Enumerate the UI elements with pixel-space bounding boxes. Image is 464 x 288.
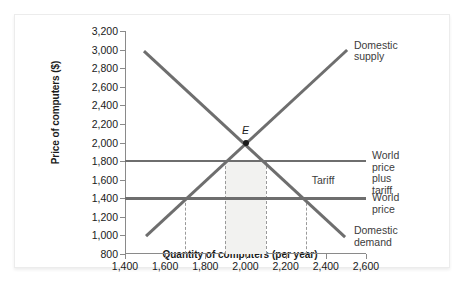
x-tick-label-1800: 1,800 xyxy=(192,260,218,272)
y-tick-2400 xyxy=(120,105,125,106)
y-tick-2200 xyxy=(120,124,125,125)
series-label-domestic-supply: Domestic supply xyxy=(354,40,398,63)
y-tick-label-1200: 1,200 xyxy=(92,211,118,223)
y-tick-1600 xyxy=(120,180,125,181)
equilibrium-point-dot xyxy=(243,140,249,146)
x-tick-2600 xyxy=(366,254,367,259)
x-tick-label-2600: 2,600 xyxy=(353,260,379,272)
x-tick-label-1400: 1,400 xyxy=(112,260,138,272)
demand-quantity-at-world-price-plus-tariff xyxy=(266,161,267,254)
x-tick-2200 xyxy=(286,254,287,259)
series-line-world-price-plus-tariff xyxy=(125,160,366,163)
x-tick-1800 xyxy=(205,254,206,259)
x-tick-label-2000: 2,000 xyxy=(232,260,258,272)
equilibrium-point-label: E xyxy=(242,124,249,136)
y-tick-2800 xyxy=(120,68,125,69)
y-tick-1000 xyxy=(120,235,125,236)
y-tick-label-2400: 2,400 xyxy=(92,99,118,111)
supply-quantity-at-world-price-plus-tariff xyxy=(225,161,226,254)
tariff-revenue-region xyxy=(225,161,265,254)
y-tick-label-1800: 1,800 xyxy=(92,155,118,167)
y-tick-label-3200: 3,200 xyxy=(92,25,118,37)
y-tick-label-2800: 2,800 xyxy=(92,62,118,74)
tariff-gap-label: Tariff xyxy=(312,174,335,186)
demand-quantity-at-world-price xyxy=(306,198,307,254)
x-tick-1600 xyxy=(165,254,166,259)
y-tick-1200 xyxy=(120,217,125,218)
x-tick-label-2400: 2,400 xyxy=(313,260,339,272)
y-axis-spine xyxy=(125,31,126,254)
y-tick-label-1000: 1,000 xyxy=(92,229,118,241)
y-tick-2000 xyxy=(120,143,125,144)
y-tick-3200 xyxy=(120,31,125,32)
series-label-domestic-demand: Domestic demand xyxy=(354,225,398,248)
y-tick-2600 xyxy=(120,87,125,88)
y-tick-3000 xyxy=(120,50,125,51)
y-tick-label-1400: 1,400 xyxy=(92,192,118,204)
screenshot-root: Price of computers ($) Quantity of compu… xyxy=(0,0,464,288)
y-tick-label-3000: 3,000 xyxy=(92,44,118,56)
series-line-world-price xyxy=(125,197,366,200)
y-tick-label-1600: 1,600 xyxy=(92,174,118,186)
x-tick-1400 xyxy=(125,254,126,259)
series-label-world-price-plus-tariff: World price plus tariff xyxy=(372,150,399,196)
x-tick-label-1600: 1,600 xyxy=(152,260,178,272)
supply-quantity-at-world-price xyxy=(185,198,186,254)
series-label-world-price: World price xyxy=(372,192,399,215)
x-tick-label-2200: 2,200 xyxy=(273,260,299,272)
y-tick-label-2200: 2,200 xyxy=(92,118,118,130)
y-tick-label-2600: 2,600 xyxy=(92,81,118,93)
chart-figure: Price of computers ($) Quantity of compu… xyxy=(15,15,451,269)
y-tick-label-2000: 2,000 xyxy=(92,137,118,149)
y-axis-title: Price of computers ($) xyxy=(50,33,61,193)
plot-area: 8001,0001,2001,4001,6001,8002,0002,2002,… xyxy=(125,31,366,254)
x-tick-2000 xyxy=(246,254,247,259)
y-tick-label-800: 800 xyxy=(100,248,118,260)
x-tick-2400 xyxy=(326,254,327,259)
figure-card: Price of computers ($) Quantity of compu… xyxy=(14,14,450,268)
